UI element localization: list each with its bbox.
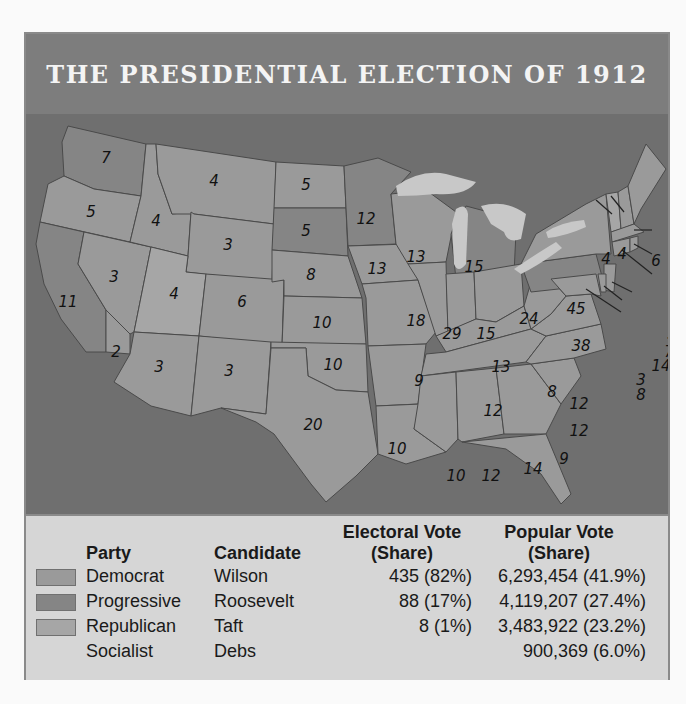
party-cell: Republican [86, 614, 214, 639]
label-ny: 45 [566, 300, 585, 318]
label-tn: 12 [483, 402, 502, 420]
us-map: 7 5 11 2 4 3 4 3 4 3 6 3 5 5 8 10 10 20 … [26, 114, 668, 514]
electoral-header-line1: Electoral Vote [332, 522, 472, 543]
legend-table: Party Candidate Electoral Vote (Share) P… [36, 522, 646, 664]
label-wv: 8 [547, 383, 557, 401]
label-ia: 13 [367, 260, 386, 278]
candidate-cell: Taft [214, 614, 332, 639]
swatch-header [36, 522, 86, 564]
popular-cell: 3,483,922 (23.2%) [472, 614, 646, 639]
electoral-cell: 8 (1%) [332, 614, 472, 639]
label-ks: 10 [312, 314, 331, 332]
label-mn: 12 [356, 210, 375, 228]
label-wa: 7 [101, 149, 111, 167]
label-me: 6 [651, 252, 661, 270]
label-vt: 4 [601, 250, 611, 268]
party-cell: Progressive [86, 589, 214, 614]
popular-cell: 6,293,454 (41.9%) [472, 564, 646, 589]
candidate-header: Candidate [214, 522, 332, 564]
label-wy: 3 [223, 236, 233, 254]
popular-cell: 4,119,207 (27.4%) [472, 589, 646, 614]
candidate-cell: Debs [214, 639, 332, 664]
legend-row-republican: Republican Taft 8 (1%) 3,483,922 (23.2%) [36, 614, 646, 639]
label-ky: 13 [491, 358, 510, 376]
party-cell: Democrat [86, 564, 214, 589]
label-ut: 4 [169, 285, 179, 303]
label-va: 12 [569, 395, 588, 413]
label-ok: 10 [323, 356, 342, 374]
party-header: Party [86, 522, 214, 564]
electoral-header-line2: (Share) [332, 543, 472, 564]
label-nc: 12 [569, 422, 588, 440]
legend-row-socialist: Socialist Debs 900,369 (6.0%) [36, 639, 646, 664]
popular-header-line1: Popular Vote [472, 522, 646, 543]
label-ar: 9 [414, 372, 424, 390]
democrat-swatch [36, 569, 76, 586]
us-map-svg: 7 5 11 2 4 3 4 3 4 3 6 3 5 5 8 10 10 20 … [26, 114, 668, 514]
legend-row-progressive: Progressive Roosevelt 88 (17%) 4,119,207… [36, 589, 646, 614]
label-or: 5 [86, 203, 96, 221]
label-nj: 14 [651, 357, 668, 375]
label-nd: 5 [301, 176, 311, 194]
label-md: 8 [636, 386, 646, 404]
popular-header-line2: (Share) [472, 543, 646, 564]
electoral-cell: 88 (17%) [332, 589, 472, 614]
label-nm: 3 [224, 362, 234, 380]
candidate-cell: Roosevelt [214, 589, 332, 614]
progressive-swatch [36, 594, 76, 611]
label-ca-south: 2 [111, 343, 121, 361]
label-tx: 20 [303, 416, 322, 434]
label-il: 29 [442, 325, 461, 343]
label-id: 4 [151, 212, 161, 230]
candidate-cell: Wilson [214, 564, 332, 589]
state-fl [462, 434, 571, 504]
label-ga: 14 [523, 460, 542, 478]
legend-header-row: Party Candidate Electoral Vote (Share) P… [36, 522, 646, 564]
state-ne [272, 250, 362, 298]
label-co: 6 [237, 293, 247, 311]
legend-table-panel: Party Candidate Electoral Vote (Share) P… [26, 514, 668, 680]
electoral-header: Electoral Vote (Share) [332, 522, 472, 564]
electoral-cell: 435 (82%) [332, 564, 472, 589]
label-ca: 11 [58, 293, 77, 311]
label-ms: 10 [446, 467, 465, 485]
state-me [628, 144, 666, 224]
popular-header: Popular Vote (Share) [472, 522, 646, 564]
label-la: 10 [387, 440, 406, 458]
label-nh: 4 [617, 245, 627, 263]
label-sd: 5 [301, 222, 311, 240]
popular-cell: 900,369 (6.0%) [472, 639, 646, 664]
election-map-figure: THE PRESIDENTIAL ELECTION OF 1912 [24, 32, 670, 680]
legend-row-democrat: Democrat Wilson 435 (82%) 6,293,454 (41.… [36, 564, 646, 589]
label-mt: 4 [209, 172, 219, 190]
candidate-header-label: Candidate [214, 543, 301, 563]
label-ri: 5 [667, 325, 668, 343]
label-wi: 13 [406, 248, 425, 266]
lake-superior [396, 173, 476, 196]
label-mi: 15 [464, 258, 483, 276]
leader-line-nj [612, 282, 632, 292]
title-bar: THE PRESIDENTIAL ELECTION OF 1912 [26, 34, 668, 114]
figure-title: THE PRESIDENTIAL ELECTION OF 1912 [46, 60, 647, 89]
label-pa: 38 [571, 337, 590, 355]
label-az: 3 [154, 358, 164, 376]
party-header-label: Party [86, 543, 131, 563]
label-sc: 9 [559, 450, 569, 468]
label-in: 15 [476, 325, 495, 343]
party-cell: Socialist [86, 639, 214, 664]
label-mo: 18 [406, 312, 425, 330]
label-nv: 3 [109, 268, 119, 286]
electoral-cell [332, 639, 472, 664]
label-oh: 24 [519, 310, 538, 328]
label-al: 12 [481, 467, 500, 485]
republican-swatch [36, 619, 76, 636]
label-ne: 8 [306, 266, 316, 284]
